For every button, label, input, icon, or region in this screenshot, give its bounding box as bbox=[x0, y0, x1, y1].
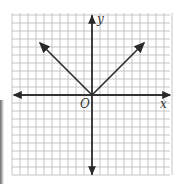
y-axis-label: y bbox=[97, 13, 104, 25]
coordinate-plane bbox=[0, 0, 175, 184]
origin-label: O bbox=[80, 98, 90, 110]
x-axis-label: x bbox=[160, 98, 167, 110]
